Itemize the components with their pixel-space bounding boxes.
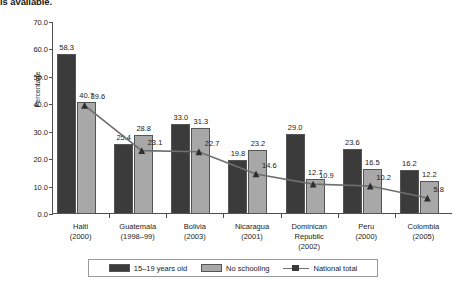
y-tick-label: 0.0 [18,210,48,219]
legend-swatch-dark-icon [109,264,130,272]
y-tick-label: 50.0 [18,72,48,81]
x-axis-label-country: Peru [358,222,374,231]
legend-label-national-total: National total [313,264,357,273]
y-tick-label: 20.0 [18,155,48,164]
y-tick-mark [49,49,53,50]
chart-figure: is available. Percentage 0.010.020.030.0… [0,0,465,286]
y-tick-mark [49,159,53,160]
bar-15-19-years-old [286,134,305,214]
x-axis-label-country: Nicaragua [235,222,269,231]
x-axis-label-year: (1998–99) [119,232,156,242]
bar-value-label: 33.0 [174,113,189,122]
y-tick-mark [49,214,53,215]
x-axis-label-country: DominicanRepublic [291,222,326,242]
legend-item-national-total: National total [283,264,357,273]
bar-value-label: 25.4 [116,133,131,142]
bar-value-label: 19.8 [231,149,246,158]
y-tick-label: 70.0 [18,18,48,27]
chart-plot-container: Percentage 0.010.020.030.040.050.060.070… [0,14,465,224]
national-total-value-label: 10.9 [319,171,334,180]
bar-group: 19.823.2 [223,22,280,214]
x-tick-mark [338,214,339,218]
y-tick-mark [49,187,53,188]
legend-item-no-schooling: No schooling [201,264,269,273]
plot-area: 58.340.739.625.428.823.133.031.322.719.8… [52,22,452,214]
bar-value-label: 23.6 [345,138,360,147]
legend-item-15-19-years-old: 15–19 years old [109,264,187,273]
legend-label-15-19-years-old: 15–19 years old [134,264,187,273]
x-axis-label-year: (2003) [184,232,206,242]
bar-15-19-years-old [57,54,76,214]
x-tick-mark [395,214,396,218]
y-tick-mark [49,22,53,23]
y-tick-mark [49,77,53,78]
bar-groups: 58.340.739.625.428.823.133.031.322.719.8… [52,22,452,214]
bar-group: 33.031.3 [166,22,223,214]
bar-value-label: 58.3 [59,43,74,52]
y-tick-label: 40.0 [18,100,48,109]
chart-legend: 15–19 years old No schooling National to… [88,259,378,277]
bar-group: 23.616.5 [338,22,395,214]
legend-label-no-schooling: No schooling [226,264,269,273]
bar-group: 58.340.7 [52,22,109,214]
national-total-value-label: 39.6 [91,92,106,101]
x-tick-mark [281,214,282,218]
x-axis-label: Haiti(2000) [70,222,92,242]
bar-value-label: 16.2 [402,159,417,168]
bar-15-19-years-old [400,170,419,214]
bar-group: 29.012.7 [281,22,338,214]
x-axis-label: Colombia(2005) [408,222,440,242]
x-axis-label-year: (2000) [70,232,92,242]
x-axis-label-country: Haiti [73,222,88,231]
bar-15-19-years-old [171,124,190,215]
national-total-value-label: 5.8 [433,185,443,194]
x-axis-label: Bolivia(2003) [184,222,206,242]
national-total-value-label: 10.2 [376,173,391,182]
y-tick-label: 60.0 [18,45,48,54]
bar-15-19-years-old [343,149,362,214]
x-axis-label-country: Guatemala [119,222,156,231]
y-tick-label: 30.0 [18,127,48,136]
x-axis-label: Peru(2000) [355,222,377,242]
bar-value-label: 16.5 [365,158,380,167]
x-tick-mark [223,214,224,218]
figure-caption-text: is available. [0,0,220,7]
x-tick-mark [109,214,110,218]
x-axis-label: DominicanRepublic(2002) [291,222,326,252]
bar-group: 25.428.8 [109,22,166,214]
x-axis-label: Nicaragua(2001) [235,222,269,242]
x-axis-label-country: Colombia [408,222,440,231]
bar-15-19-years-old [114,144,133,214]
bar-value-label: 28.8 [136,124,151,133]
bar-no-schooling [306,179,325,214]
y-tick-mark [49,132,53,133]
national-total-value-label: 22.7 [205,138,220,147]
y-tick-mark [49,104,53,105]
bar-no-schooling [134,135,153,214]
bar-value-label: 31.3 [194,117,209,126]
x-tick-mark [166,214,167,218]
national-total-value-label: 14.6 [262,160,277,169]
bar-value-label: 12.2 [422,170,437,179]
figure-caption: is available. [0,0,220,10]
y-axis-tick-labels: 0.010.020.030.040.050.060.070.0 [18,14,48,214]
bar-no-schooling [77,102,96,214]
legend-swatch-light-icon [201,264,222,272]
x-axis-label-year: (2000) [355,232,377,242]
bar-15-19-years-old [228,160,247,214]
y-tick-label: 10.0 [18,182,48,191]
bar-value-label: 29.0 [288,123,303,132]
x-axis-label-year: (2002) [291,242,326,252]
x-axis-label: Guatemala(1998–99) [119,222,156,242]
legend-swatch-line-marker-icon [283,264,309,272]
x-axis-label-year: (2005) [408,232,440,242]
x-axis-label-year: (2001) [235,232,269,242]
national-total-value-label: 23.1 [148,137,163,146]
bar-value-label: 23.2 [251,139,266,148]
x-axis-label-country: Bolivia [184,222,206,231]
